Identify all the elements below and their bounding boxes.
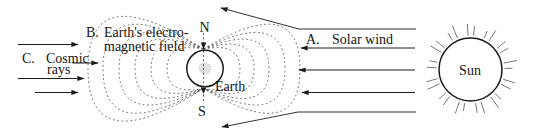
label-south-pole: S <box>198 104 206 119</box>
label-cosmic-prefix: C. <box>22 51 35 66</box>
diagram-canvas: C. Cosmic rays B. Earth's electro- magne… <box>0 0 538 130</box>
label-field-line1: Earth's electro- <box>104 25 189 40</box>
label-field-prefix: B. <box>86 25 99 40</box>
label-sun: Sun <box>459 63 481 78</box>
magnetosphere-diagram: C. Cosmic rays B. Earth's electro- magne… <box>0 0 538 130</box>
earth-core <box>199 62 212 75</box>
label-cosmic-word2: rays <box>47 62 70 77</box>
solar-wind-arrows <box>221 8 416 127</box>
label-solar-prefix: A. <box>306 32 320 47</box>
label-field-line2: magnetic field <box>104 39 184 54</box>
label-north-pole: N <box>199 20 209 35</box>
label-solar-wind: Solar wind <box>332 32 393 47</box>
label-earth: Earth <box>215 79 245 94</box>
